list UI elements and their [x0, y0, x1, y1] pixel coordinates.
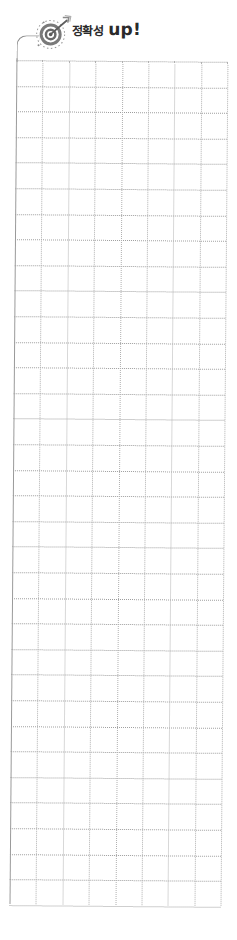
- title-suffix: up!: [108, 19, 141, 39]
- practice-page: 정확성 up!: [0, 0, 237, 940]
- writing-grid: [10, 60, 228, 906]
- section-title: 정확성 up!: [72, 19, 142, 42]
- grid-column-line: [221, 62, 229, 906]
- grid-row-line: [10, 905, 221, 908]
- section-header: 정확성 up!: [3, 0, 237, 61]
- target-arrow-icon: [36, 13, 72, 49]
- title-korean: 정확성: [72, 21, 104, 38]
